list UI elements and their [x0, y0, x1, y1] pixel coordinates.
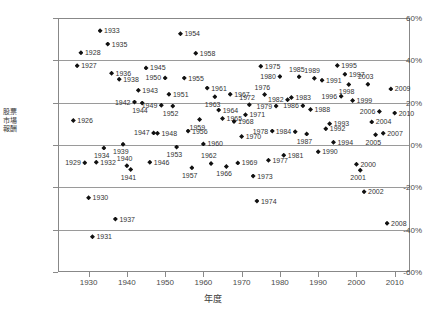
data-point-label: 1937	[119, 216, 135, 223]
data-point-label: 1976	[255, 84, 271, 91]
data-point-label: 1958	[200, 50, 216, 57]
x-tick-mark	[395, 272, 396, 277]
data-point-label: 1966	[216, 170, 232, 177]
x-tick-mark	[203, 272, 204, 277]
x-tick-label: 1930	[69, 278, 109, 287]
scatter-chart: 股票市場報酬 60%40%20%0%-20%-40%-60% 193019401…	[0, 0, 426, 316]
data-point-label: 2005	[366, 139, 382, 146]
data-point-label: 1928	[85, 49, 101, 56]
data-point-label: 1987	[297, 138, 313, 145]
data-point-label: 1998	[339, 88, 355, 95]
data-point-label: 1963	[205, 101, 221, 108]
data-point-label: 1996	[322, 93, 338, 100]
data-point-label: 2004	[376, 118, 392, 125]
data-point-label: 1946	[154, 159, 170, 166]
y-tick-mark	[53, 230, 58, 231]
data-point-label: 1983	[295, 94, 311, 101]
data-point-label: 1982	[268, 96, 284, 103]
data-point-label: 1948	[161, 130, 177, 137]
data-point-label: 1950	[146, 74, 162, 81]
data-point-label: 2001	[350, 174, 366, 181]
data-point-label: 1961	[211, 85, 227, 92]
x-tick-mark	[318, 272, 319, 277]
data-point-label: 1969	[242, 159, 258, 166]
x-tick-mark	[127, 272, 128, 277]
data-point-label: 1977	[272, 157, 288, 164]
data-point-label: 1954	[184, 30, 200, 37]
data-point-label: 1930	[93, 194, 109, 201]
data-point-label: 1979	[257, 103, 273, 110]
gridline-y	[59, 145, 409, 146]
x-tick-label: 1960	[183, 278, 223, 287]
gridline-y	[59, 230, 409, 231]
data-point-label: 1938	[123, 76, 139, 83]
data-point-label: 2000	[360, 161, 376, 168]
y-tick-mark	[53, 60, 58, 61]
x-tick-label: 1980	[260, 278, 300, 287]
data-point-label: 1972	[239, 94, 255, 101]
data-point-label: 1949	[142, 102, 158, 109]
y-tick-label: 20%	[372, 98, 426, 107]
y-tick-label: 60%	[372, 14, 426, 23]
x-tick-label: 2010	[375, 278, 415, 287]
data-point-label: 1962	[201, 152, 217, 159]
data-point-label: 1955	[188, 75, 204, 82]
data-point-label: 1932	[100, 159, 116, 166]
data-point-label: 1959	[190, 124, 206, 131]
data-point-label: 1988	[315, 106, 331, 113]
data-point-label: 1952	[163, 110, 179, 117]
data-point-label: 1960	[207, 140, 223, 147]
y-tick-label: -60%	[372, 268, 426, 277]
data-point-label: 1995	[341, 62, 357, 69]
data-point-label: 1953	[167, 151, 183, 158]
x-tick-label: 1990	[298, 278, 338, 287]
data-point-label: 1994	[337, 139, 353, 146]
x-tick-label: 1940	[107, 278, 147, 287]
data-point-label: 1931	[96, 233, 112, 240]
y-tick-mark	[53, 145, 58, 146]
data-point-label: 1975	[265, 63, 281, 70]
data-point-label: 1986	[283, 102, 299, 109]
data-point-label: 1971	[249, 111, 265, 118]
gridline-y	[59, 187, 409, 188]
y-tick-mark	[53, 187, 58, 188]
data-point-label: 2010	[399, 110, 415, 117]
data-point-label: 1926	[77, 117, 93, 124]
y-tick-label: 40%	[372, 56, 426, 65]
data-point-label: 1968	[238, 118, 254, 125]
y-tick-mark	[53, 18, 58, 19]
data-point-label: 1945	[150, 64, 166, 71]
y-tick-mark	[53, 272, 58, 273]
data-point-label: 1985	[289, 66, 305, 73]
x-tick-label: 2000	[336, 278, 376, 287]
data-point-label: 1999	[357, 97, 373, 104]
data-point-label: 1935	[112, 41, 128, 48]
data-point-label: 1980	[260, 73, 276, 80]
data-point-label: 1941	[121, 174, 137, 181]
data-point-label: 2002	[368, 188, 384, 195]
data-point-label: 2008	[391, 220, 407, 227]
data-point-label: 1933	[104, 27, 120, 34]
x-tick-mark	[356, 272, 357, 277]
data-point-label: 1989	[304, 67, 320, 74]
data-point-label: 1978	[253, 128, 269, 135]
data-point-label: 1964	[223, 107, 239, 114]
data-point-label: 1993	[334, 120, 350, 127]
data-point-label: 1947	[134, 129, 150, 136]
data-point-label: 1973	[257, 173, 273, 180]
data-point-label: 1990	[322, 148, 338, 155]
x-tick-mark	[89, 272, 90, 277]
data-point-label: 1927	[81, 62, 97, 69]
data-point-label: 1943	[142, 87, 158, 94]
data-point-label: 1974	[261, 198, 277, 205]
x-tick-label: 1950	[145, 278, 185, 287]
data-point-label: 2003	[358, 73, 374, 80]
data-point-label: 2009	[395, 85, 411, 92]
data-point-label: 1951	[173, 91, 189, 98]
x-tick-mark	[280, 272, 281, 277]
data-point-label: 1929	[65, 159, 81, 166]
x-axis-title: 年度	[0, 292, 426, 305]
data-point-label: 1934	[94, 152, 110, 159]
data-point-label: 1984	[276, 128, 292, 135]
data-point-label: 2007	[387, 130, 403, 137]
